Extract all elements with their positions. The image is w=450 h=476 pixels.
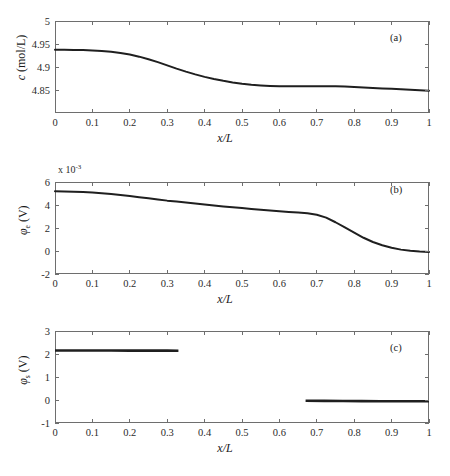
- x-tick-label: 0: [52, 278, 57, 289]
- x-tick-mark: [429, 331, 430, 335]
- x-tick-mark: [167, 182, 168, 186]
- y-tick-mark: [55, 423, 59, 424]
- x-tick-mark: [279, 109, 280, 113]
- x-tick-mark: [429, 419, 430, 423]
- x-tick-mark: [92, 331, 93, 335]
- x-tick-mark: [55, 21, 56, 25]
- x-tick-label: 0.4: [198, 278, 211, 289]
- panel-tag-a: (a): [390, 32, 402, 43]
- x-tick-label: 0.4: [198, 117, 211, 128]
- subplot-a: c(mol/L) x/L (a) 4.854.94.955 00.10.20.3…: [0, 0, 450, 155]
- data-curve-a: [55, 50, 429, 91]
- y-tick-label: -1: [0, 418, 50, 429]
- x-tick-mark: [204, 109, 205, 113]
- y-tick-mark: [425, 228, 429, 229]
- x-tick-mark: [429, 270, 430, 274]
- x-tick-label: 0.2: [123, 278, 136, 289]
- y-tick-mark: [55, 90, 59, 91]
- y-axis-exponent-power-b: -3: [76, 163, 82, 171]
- x-tick-mark: [316, 182, 317, 186]
- y-tick-mark: [55, 377, 59, 378]
- y-tick-mark: [425, 44, 429, 45]
- x-tick-label: 0.1: [86, 278, 99, 289]
- x-tick-mark: [354, 331, 355, 335]
- x-tick-mark: [129, 419, 130, 423]
- y-axis-exponent-b: x 10-3: [58, 163, 81, 175]
- figure-container: c(mol/L) x/L (a) 4.854.94.955 00.10.20.3…: [0, 0, 450, 476]
- x-tick-label: 0.8: [348, 427, 361, 438]
- y-tick-label: 2: [0, 223, 50, 234]
- x-tick-mark: [279, 331, 280, 335]
- y-tick-mark: [425, 400, 429, 401]
- x-tick-mark: [92, 109, 93, 113]
- data-segment-positive-electrode: [306, 401, 429, 402]
- x-tick-mark: [354, 182, 355, 186]
- x-tick-mark: [316, 109, 317, 113]
- y-tick-label: 4.85: [0, 85, 50, 96]
- x-axis-label-a: x/L: [0, 131, 450, 146]
- y-tick-mark: [425, 90, 429, 91]
- y-tick-mark: [55, 251, 59, 252]
- x-tick-mark: [391, 109, 392, 113]
- x-tick-mark: [279, 182, 280, 186]
- x-tick-label: 0.7: [310, 278, 323, 289]
- x-tick-mark: [55, 182, 56, 186]
- y-tick-mark: [55, 400, 59, 401]
- x-tick-mark: [354, 109, 355, 113]
- x-tick-label: 0.3: [161, 427, 174, 438]
- x-tick-label: 0.8: [348, 117, 361, 128]
- x-tick-mark: [316, 21, 317, 25]
- x-tick-mark: [354, 419, 355, 423]
- x-tick-mark: [129, 331, 130, 335]
- x-tick-mark: [92, 419, 93, 423]
- x-tick-mark: [92, 270, 93, 274]
- x-tick-label: 0: [52, 117, 57, 128]
- data-curve-b: [55, 191, 429, 252]
- x-tick-label: 0.5: [235, 278, 248, 289]
- y-tick-mark: [55, 228, 59, 229]
- x-tick-mark: [167, 21, 168, 25]
- subplot-c: φs(V) x/L (c) -10123 00.10.20.30.40.50.6…: [0, 320, 450, 476]
- x-tick-mark: [92, 182, 93, 186]
- x-tick-label: 1: [426, 427, 431, 438]
- y-tick-label: 6: [0, 177, 50, 188]
- x-tick-label: 1: [426, 117, 431, 128]
- y-tick-label: 4.95: [0, 39, 50, 50]
- x-tick-label: 0.7: [310, 117, 323, 128]
- x-tick-label: 0.8: [348, 278, 361, 289]
- x-tick-mark: [279, 419, 280, 423]
- x-tick-label: 0.5: [235, 427, 248, 438]
- x-tick-mark: [242, 109, 243, 113]
- x-axis-label-b: x/L: [0, 292, 450, 307]
- y-axis-symbol-a: c: [14, 75, 28, 80]
- x-tick-mark: [167, 109, 168, 113]
- y-tick-mark: [55, 354, 59, 355]
- x-tick-label: 1: [426, 278, 431, 289]
- y-tick-mark: [425, 67, 429, 68]
- x-tick-label: 0.4: [198, 427, 211, 438]
- y-tick-label: -2: [0, 269, 50, 280]
- y-tick-mark: [55, 21, 59, 22]
- y-tick-label: 4.9: [0, 62, 50, 73]
- y-tick-label: 4: [0, 200, 50, 211]
- y-tick-label: 0: [0, 395, 50, 406]
- x-tick-label: 0.6: [273, 427, 286, 438]
- x-tick-mark: [167, 270, 168, 274]
- x-tick-mark: [204, 21, 205, 25]
- x-tick-mark: [55, 419, 56, 423]
- panel-tag-c: (c): [390, 342, 402, 353]
- subplot-b: x 10-3 φe(V) x/L (b) -20246 00.10.20.30.…: [0, 160, 450, 318]
- x-tick-mark: [316, 331, 317, 335]
- y-tick-mark: [55, 44, 59, 45]
- x-tick-label: 0.3: [161, 278, 174, 289]
- x-tick-label: 0.5: [235, 117, 248, 128]
- x-tick-mark: [55, 331, 56, 335]
- y-tick-mark: [55, 274, 59, 275]
- x-tick-mark: [354, 21, 355, 25]
- x-tick-label: 0.9: [385, 117, 398, 128]
- x-tick-mark: [242, 419, 243, 423]
- y-tick-mark: [55, 331, 59, 332]
- y-tick-label: 3: [0, 326, 50, 337]
- x-tick-label: 0.7: [310, 427, 323, 438]
- x-tick-mark: [129, 182, 130, 186]
